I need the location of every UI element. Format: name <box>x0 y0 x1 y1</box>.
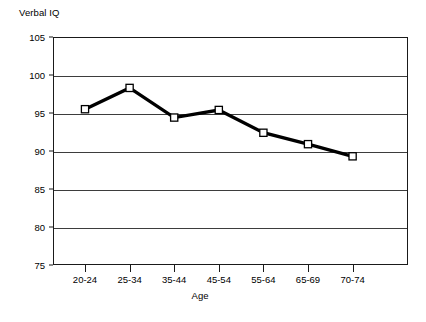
x-axis-tick-label: 35-44 <box>162 274 186 285</box>
x-axis-tick-mark <box>308 265 309 272</box>
y-axis-tick-mark <box>49 227 53 228</box>
data-point-markers <box>81 84 356 160</box>
y-axis-tick-mark <box>49 151 53 152</box>
x-axis-tick-mark <box>353 265 354 272</box>
data-point-marker <box>215 106 222 113</box>
x-axis-tick-label: 45-54 <box>207 274 231 285</box>
verbal-iq-by-age-chart: Verbal IQ 7580859095100105 Age 20-2425-3… <box>0 0 426 322</box>
data-point-marker <box>349 153 356 160</box>
data-point-marker <box>126 84 133 91</box>
y-axis-tick-mark <box>49 189 53 190</box>
x-axis-title-text: Age <box>192 290 209 301</box>
data-point-marker <box>171 114 178 121</box>
data-point-marker <box>260 129 267 136</box>
y-axis-tick-mark <box>49 113 53 114</box>
data-point-marker <box>81 106 88 113</box>
y-axis-tick-mark <box>49 75 53 76</box>
x-axis-tick-label: 65-69 <box>296 274 320 285</box>
y-axis-tick-mark <box>49 265 53 266</box>
x-axis-tick-mark <box>85 265 86 272</box>
x-axis-tick-label: 70-74 <box>340 274 364 285</box>
data-point-marker <box>304 141 311 148</box>
x-axis-tick-mark <box>130 265 131 272</box>
x-axis-tick-label: 55-64 <box>251 274 275 285</box>
x-axis-tick-label: 25-34 <box>117 274 141 285</box>
y-axis-tick-mark <box>49 37 53 38</box>
x-axis-tick-label: 20-24 <box>73 274 97 285</box>
x-axis-tick-mark <box>174 265 175 272</box>
x-axis-tick-mark <box>219 265 220 272</box>
x-axis-title: Age <box>0 290 426 301</box>
x-axis-tick-mark <box>263 265 264 272</box>
verbal-iq-line <box>85 88 353 156</box>
